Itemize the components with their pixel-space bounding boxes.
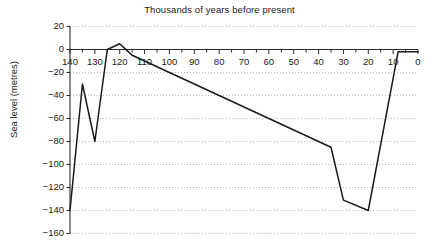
y-tick-label--20: −20 bbox=[48, 66, 64, 77]
x-tick-label-0: 0 bbox=[403, 56, 433, 67]
y-tick-label-20: 20 bbox=[53, 20, 64, 31]
y-tick-label--160: −160 bbox=[43, 227, 64, 238]
x-tick-marks bbox=[70, 50, 418, 55]
y-tick-label--40: −40 bbox=[48, 89, 64, 100]
y-tick-label--80: −80 bbox=[48, 135, 64, 146]
data-series-group bbox=[70, 44, 418, 211]
data-series-0 bbox=[70, 44, 418, 211]
y-tick-label--60: −60 bbox=[48, 112, 64, 123]
y-tick-label--100: −100 bbox=[43, 158, 64, 169]
y-tick-label-0: 0 bbox=[59, 43, 64, 54]
y-tick-label--140: −140 bbox=[43, 204, 64, 215]
plot-area bbox=[0, 0, 439, 251]
y-tick-label--120: −120 bbox=[43, 181, 64, 192]
sea-level-chart: Thousands of years before present Sea le… bbox=[0, 0, 439, 251]
